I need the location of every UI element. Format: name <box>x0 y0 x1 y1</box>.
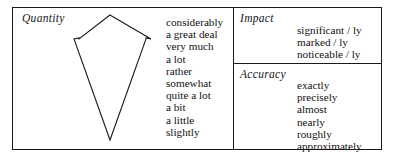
section-heading-impact: Impact <box>240 12 274 24</box>
list-item: very much <box>166 40 223 52</box>
list-item: slightly <box>166 126 223 138</box>
list-item: roughly <box>297 128 362 140</box>
list-item: precisely <box>297 91 362 103</box>
column-divider <box>233 7 234 150</box>
list-item: exactly <box>297 79 362 91</box>
list-item: somewhat <box>166 77 223 89</box>
section-heading-accuracy: Accuracy <box>240 68 286 80</box>
list-item: noticeable / ly <box>297 48 362 60</box>
list-item: quite a lot <box>166 89 223 101</box>
list-item: significant / ly <box>297 24 362 36</box>
list-item: nearly <box>297 116 362 128</box>
list-item: rather <box>166 65 223 77</box>
list-item: marked / ly <box>297 36 362 48</box>
word-list-impact: significant / ly marked / ly noticeable … <box>297 24 362 61</box>
list-item: almost <box>297 103 362 115</box>
impact-accuracy-divider <box>233 63 382 64</box>
list-item: considerably <box>166 16 223 28</box>
list-item: a great deal <box>166 28 223 40</box>
list-item: a bit <box>166 101 223 113</box>
list-item: a little <box>166 114 223 126</box>
section-heading-quantity: Quantity <box>22 12 65 24</box>
list-item: a lot <box>166 53 223 65</box>
downward-arrow-icon <box>55 8 165 148</box>
diagram-canvas: Quantity considerably a great deal very … <box>0 0 393 162</box>
list-item: approximately <box>297 140 362 152</box>
word-list-accuracy: exactly precisely almost nearly roughly … <box>297 79 362 152</box>
word-list-quantity: considerably a great deal very much a lo… <box>166 16 223 138</box>
